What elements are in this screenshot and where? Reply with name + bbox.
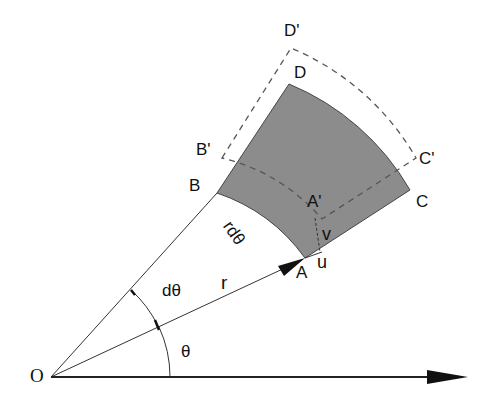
label-D: D — [294, 64, 306, 81]
label-C: C — [416, 193, 428, 210]
label-v: v — [322, 225, 331, 243]
label-D-prime: D' — [284, 22, 300, 39]
label-A: A — [296, 264, 307, 281]
label-A-prime: A' — [307, 193, 322, 210]
label-origin: O — [30, 366, 44, 385]
x-axis-arrowhead — [427, 370, 468, 384]
ray-OB — [51, 193, 217, 377]
label-dtheta: dθ — [162, 282, 181, 299]
label-B-prime: B' — [196, 141, 211, 158]
diagram-graphics — [0, 0, 487, 409]
radius-vector-r — [51, 260, 302, 377]
dtheta-arrow-tick-upper — [131, 290, 135, 295]
label-theta: θ — [181, 343, 190, 360]
label-u: u — [317, 253, 327, 271]
label-C-prime: C' — [419, 150, 435, 167]
theta-arc — [159, 327, 170, 377]
label-B: B — [189, 177, 200, 194]
diagram-canvas: O A B C D A' B' C' D' rdθ r dθ θ u v — [0, 0, 487, 409]
element-region — [217, 84, 410, 258]
label-radius: r — [221, 273, 227, 292]
